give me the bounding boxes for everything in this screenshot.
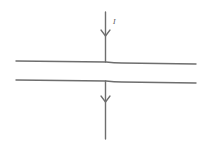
- slab-top-line: [16, 61, 196, 64]
- current-slab-diagram: I: [0, 0, 205, 144]
- current-label: I: [112, 18, 116, 26]
